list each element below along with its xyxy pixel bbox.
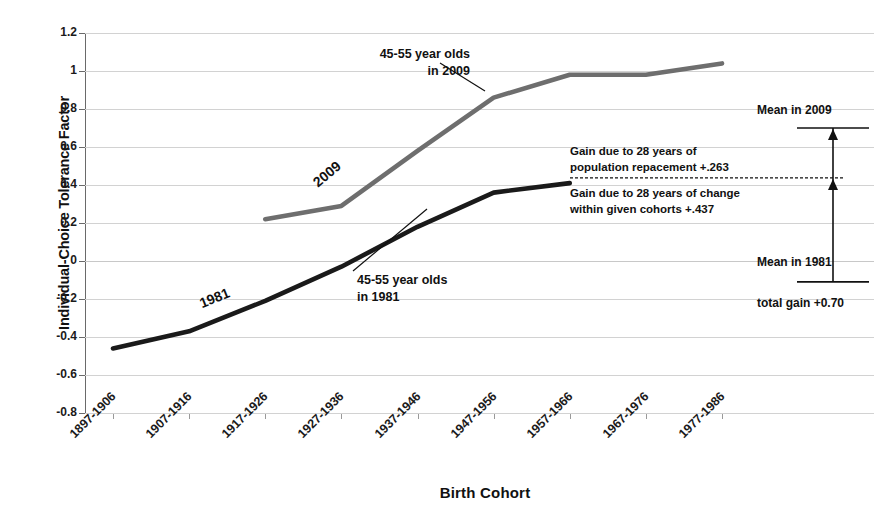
callout-1981-line-1: 45-55 year olds [357,272,447,289]
x-tick-mark [494,414,495,419]
mean-1981-label: Mean in 1981 [757,255,832,269]
x-tick-mark [418,414,419,419]
y-tick-label: -0.8 [39,405,77,419]
y-tick-label: 0.8 [39,101,77,115]
y-tick-label: 1.2 [39,25,77,39]
x-axis-title: Birth Cohort [0,484,874,501]
x-tick-mark [341,414,342,419]
y-tick-label: -0.4 [39,329,77,343]
gain-upper-arrowhead [828,129,838,140]
x-axis-title-text: Birth Cohort [440,484,531,501]
total-gain-label: total gain +0.70 [757,296,844,310]
y-tick-label: -0.2 [39,291,77,305]
y-tick-label: 0.2 [39,215,77,229]
x-tick-mark [570,414,571,419]
gain-pop-line-1: Gain due to 28 years of [570,143,729,159]
gain-within-cohorts-text: Gain due to 28 years of change within gi… [570,185,740,218]
gain-coh-line-2: within given cohorts +.437 [570,201,740,217]
gain-bracket [85,33,874,414]
callout-2009-line-2: in 2009 [270,63,470,80]
x-tick-mark [722,414,723,419]
y-tick-label: -0.6 [39,367,77,381]
y-tick-label: 0 [39,253,77,267]
gain-population-replacement-text: Gain due to 28 years of population repac… [570,143,729,176]
callout-2009: 45-55 year olds in 2009 [270,46,470,80]
x-tick-mark [265,414,266,419]
x-tick-mark [113,414,114,419]
x-tick-mark [189,414,190,419]
callout-1981: 45-55 year olds in 1981 [357,272,447,306]
chart-canvas: Individual-Choice Tolerance Factor 1.210… [0,0,874,518]
y-tick-label: 0.6 [39,139,77,153]
callout-1981-line-2: in 1981 [357,289,447,306]
callout-2009-line-1: 45-55 year olds [270,46,470,63]
y-tick-label: 0.4 [39,177,77,191]
y-tick-label: 1 [39,63,77,77]
gain-pop-line-2: population repacement +.263 [570,159,729,175]
plot-area: 1.210.80.60.40.20-0.2-0.4-0.6-0.8 1981 2… [85,33,874,413]
mean-2009-label: Mean in 2009 [757,103,832,117]
gain-coh-line-1: Gain due to 28 years of change [570,185,740,201]
x-tick-mark [646,414,647,419]
gain-lower-arrowhead [828,179,838,190]
